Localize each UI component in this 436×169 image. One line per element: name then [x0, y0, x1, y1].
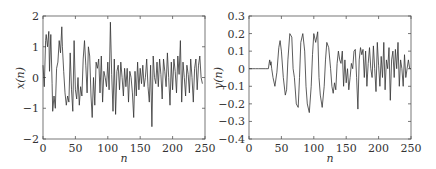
- x-tick-label: 100: [303, 142, 324, 155]
- y-tick-label: 0.2: [228, 28, 246, 41]
- x-axis-label: n: [120, 152, 127, 165]
- x-tick-label: 100: [97, 142, 118, 155]
- y-tick-label: 0: [32, 72, 39, 85]
- x-ticks: 050100150200250: [246, 16, 422, 155]
- x-tick-label: 250: [401, 142, 422, 155]
- signal-line: [43, 22, 202, 127]
- y-ticks: −0.4−0.3−0.2−0.100.10.20.3: [218, 10, 411, 146]
- x-tick-label: 150: [130, 142, 151, 155]
- x-tick-label: 150: [336, 142, 357, 155]
- x-tick-label: 0: [40, 142, 47, 155]
- x-tick-label: 50: [68, 142, 82, 155]
- y-tick-label: 1: [32, 41, 39, 54]
- y-tick-label: 0.1: [228, 45, 246, 58]
- chart-y-n: −0.4−0.3−0.2−0.100.10.20.3 0501001502002…: [212, 10, 422, 165]
- y-tick-label: −0.4: [218, 133, 245, 146]
- y-tick-label: −0.3: [218, 115, 245, 128]
- x-tick-label: 200: [368, 142, 389, 155]
- y-axis-label: x(n): [14, 67, 27, 89]
- chart-x-n: −2−1012 050100150200250 n x(n): [14, 10, 216, 165]
- x-tick-label: 0: [246, 142, 253, 155]
- x-tick-label: 50: [274, 142, 288, 155]
- y-tick-label: −1: [23, 102, 39, 115]
- y-tick-label: −2: [23, 133, 39, 146]
- x-tick-label: 250: [195, 142, 216, 155]
- figure: −2−1012 050100150200250 n x(n) −0.4−0.3−…: [0, 0, 436, 169]
- y-axis-label: y(n): [212, 67, 225, 90]
- y-tick-label: 2: [32, 10, 39, 23]
- y-tick-label: 0.3: [228, 10, 246, 23]
- signal-line: [249, 32, 411, 113]
- y-tick-label: −0.2: [218, 98, 245, 111]
- y-tick-label: 0: [238, 63, 245, 76]
- x-tick-label: 200: [162, 142, 183, 155]
- x-axis-label: n: [326, 152, 333, 165]
